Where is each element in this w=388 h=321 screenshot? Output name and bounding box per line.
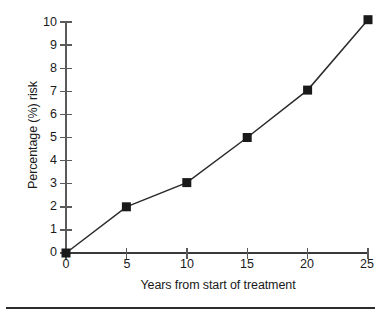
data-point-marker (182, 178, 191, 187)
chart-figure: Percentage (%) risk 10 9 8 7 6 5 4 3 2 1… (0, 0, 388, 321)
bottom-divider (6, 307, 375, 309)
data-point-marker (303, 86, 312, 95)
plot-area (0, 0, 388, 321)
x-axis-title: Years from start of treatment (60, 278, 376, 292)
data-point-marker (62, 249, 71, 258)
data-point-marker (122, 202, 131, 211)
data-line (66, 20, 368, 253)
data-point-marker (364, 15, 373, 24)
data-point-marker (243, 133, 252, 142)
